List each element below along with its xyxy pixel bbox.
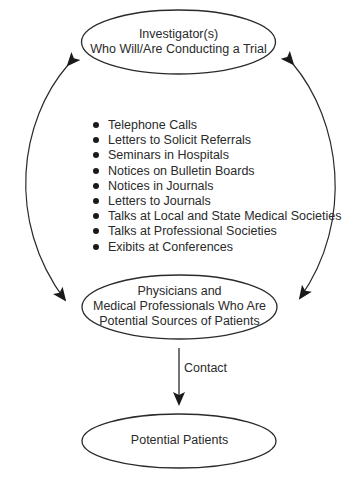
- bullet-icon: [93, 168, 99, 174]
- patients-line-1: Potential Patients: [82, 433, 277, 448]
- bullet-icon: [93, 198, 99, 204]
- channel-item: Talks at Professional Societies: [92, 224, 341, 239]
- physicians-line-2: Medical Professionals Who Are: [82, 299, 277, 314]
- patients-node: Potential Patients: [82, 433, 277, 448]
- channel-item: Talks at Local and State Medical Societi…: [92, 209, 341, 224]
- physicians-node: Physicians and Medical Professionals Who…: [82, 284, 277, 329]
- bullet-icon: [93, 137, 99, 143]
- channel-item: Letters to Journals: [92, 194, 341, 209]
- bullet-icon: [93, 122, 99, 128]
- bullet-icon: [93, 244, 99, 250]
- investigators-line-2: Who Will/Are Conducting a Trial: [81, 42, 276, 57]
- bullet-icon: [93, 228, 99, 234]
- investigators-line-1: Investigator(s): [81, 27, 276, 42]
- physicians-line-1: Physicians and: [82, 284, 277, 299]
- physicians-line-3: Potential Sources of Patients: [82, 314, 277, 329]
- bullet-icon: [93, 183, 99, 189]
- investigators-node: Investigator(s) Who Will/Are Conducting …: [81, 27, 276, 57]
- channel-item: Letters to Solicit Referrals: [92, 133, 341, 148]
- channel-item: Telephone Calls: [92, 118, 341, 133]
- channel-item: Seminars in Hospitals: [92, 148, 341, 163]
- channel-item: Exibits at Conferences: [92, 240, 341, 255]
- channel-item: Notices on Bulletin Boards: [92, 164, 341, 179]
- left-bidirectional-arrow: [26, 65, 68, 300]
- bullet-icon: [93, 152, 99, 158]
- contact-label: Contact: [184, 361, 227, 375]
- recruitment-channels-list: Telephone Calls Letters to Solicit Refer…: [92, 118, 341, 255]
- bullet-icon: [93, 213, 99, 219]
- channel-item: Notices in Journals: [92, 179, 341, 194]
